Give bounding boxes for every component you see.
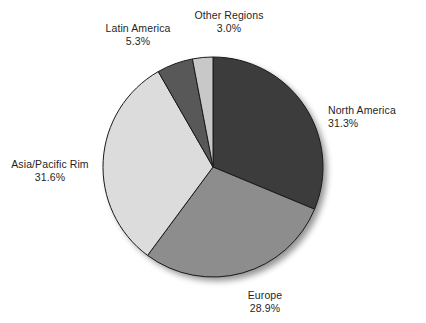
- pie-slice-group: [103, 57, 323, 277]
- pie-label-north-america-value: 31.3%: [328, 117, 424, 130]
- pie-label-asia-pacific-rim-name: Asia/Pacific Rim: [2, 158, 98, 171]
- pie-label-europe: Europe 28.9%: [220, 289, 310, 315]
- pie-label-asia-pacific-rim-value: 31.6%: [2, 171, 98, 184]
- pie-label-other-regions-value: 3.0%: [179, 22, 279, 35]
- pie-label-other-regions-name: Other Regions: [179, 9, 279, 22]
- pie-chart-figure: Other Regions 3.0% Latin America 5.3% No…: [0, 0, 426, 323]
- pie-label-europe-value: 28.9%: [220, 302, 310, 315]
- pie-label-north-america-name: North America: [328, 104, 424, 117]
- pie-label-latin-america-value: 5.3%: [86, 35, 190, 48]
- pie-label-europe-name: Europe: [220, 289, 310, 302]
- pie-label-latin-america-name: Latin America: [86, 22, 190, 35]
- pie-label-other-regions: Other Regions 3.0%: [179, 9, 279, 35]
- pie-label-asia-pacific-rim: Asia/Pacific Rim 31.6%: [2, 158, 98, 184]
- pie-label-latin-america: Latin America 5.3%: [86, 22, 190, 48]
- pie-label-north-america: North America 31.3%: [328, 104, 424, 130]
